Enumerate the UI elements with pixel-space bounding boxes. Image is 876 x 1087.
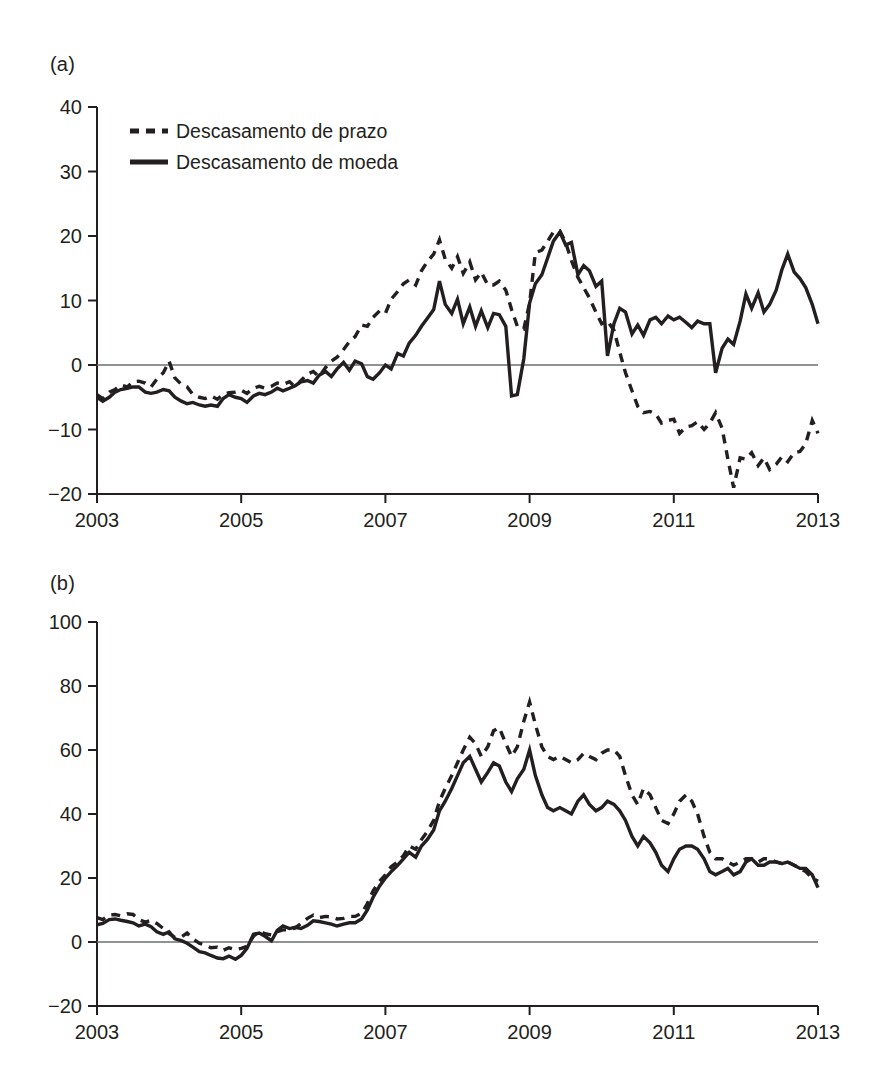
x-tick-label: 2013 <box>796 509 841 531</box>
panel-b-svg: −20020406080100 200320052007200920112013… <box>0 545 876 1087</box>
panel-a-legend-label-0: Descasamento de prazo <box>176 120 388 142</box>
x-tick-label: 2013 <box>796 1021 841 1043</box>
x-tick-label: 2009 <box>507 509 552 531</box>
panel-a-series-descasamento-de-prazo <box>97 231 818 488</box>
y-tick-label: 60 <box>60 739 82 761</box>
y-tick-label: 40 <box>60 96 82 118</box>
panel-a-x-ticks: 200320052007200920112013 <box>75 494 841 531</box>
panel-a-svg: −20−10010203040 200320052007200920112013… <box>0 0 876 545</box>
x-tick-label: 2007 <box>363 509 408 531</box>
y-tick-label: 100 <box>49 611 82 633</box>
figure-root: (a) −20−10010203040 20032005200720092011… <box>0 0 876 1087</box>
x-tick-label: 2005 <box>219 509 264 531</box>
y-tick-label: 80 <box>60 675 82 697</box>
x-tick-label: 2003 <box>75 1021 120 1043</box>
panel-a-legend: Descasamento de prazo Descasamento de mo… <box>130 120 398 173</box>
panel-b-series-descasamento-de-prazo <box>97 702 818 950</box>
x-tick-label: 2003 <box>75 509 120 531</box>
y-tick-label: −20 <box>48 995 82 1017</box>
panel-b-series-descasamento-de-moeda <box>97 750 818 959</box>
y-tick-label: 10 <box>60 290 82 312</box>
panel-a-legend-label-1: Descasamento de moeda <box>176 151 398 173</box>
y-tick-label: −20 <box>48 483 82 505</box>
y-tick-label: 0 <box>71 354 82 376</box>
panel-b: (b) −20020406080100 20032005200720092011… <box>0 545 876 1087</box>
panel-a: (a) −20−10010203040 20032005200720092011… <box>0 0 876 545</box>
x-tick-label: 2011 <box>652 1021 695 1043</box>
x-tick-label: 2011 <box>652 509 695 531</box>
y-tick-label: 20 <box>60 867 82 889</box>
x-tick-label: 2009 <box>507 1021 552 1043</box>
x-tick-label: 2007 <box>363 1021 408 1043</box>
x-tick-label: 2005 <box>219 1021 264 1043</box>
panel-b-x-ticks: 200320052007200920112013 <box>75 1006 841 1043</box>
y-tick-label: 20 <box>60 225 82 247</box>
panel-b-plot: −20020406080100 200320052007200920112013… <box>0 545 876 1087</box>
y-tick-label: 40 <box>60 803 82 825</box>
panel-b-y-ticks: −20020406080100 <box>48 611 97 1017</box>
y-tick-label: 30 <box>60 161 82 183</box>
y-tick-label: 0 <box>71 931 82 953</box>
panel-a-plot: −20−10010203040 200320052007200920112013… <box>0 0 876 545</box>
panel-a-y-ticks: −20−10010203040 <box>48 96 97 505</box>
y-tick-label: −10 <box>48 419 82 441</box>
